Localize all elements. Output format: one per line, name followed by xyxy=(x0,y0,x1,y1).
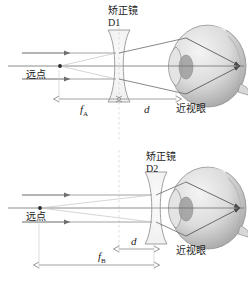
optic-nerve-bottom xyxy=(238,226,248,237)
vertex-distance-label-d-bottom: d xyxy=(131,236,137,248)
lens-label-d2-line2: D2 xyxy=(146,164,158,175)
eye-label-bottom: 近视眼 xyxy=(176,246,206,257)
virtual-ray-lower-bottom xyxy=(40,208,152,222)
vertex-distance-label-d-top: d xyxy=(144,104,150,116)
far-point-label-top: 远点 xyxy=(26,70,46,81)
lens-label-d1-line2: D1 xyxy=(108,18,120,29)
far-point-marker-top xyxy=(58,64,62,68)
far-point-marker-bottom xyxy=(38,206,42,210)
focal-length-label-fb: fB xyxy=(98,251,106,266)
virtual-ray-upper-bottom xyxy=(40,195,152,208)
optic-nerve-top xyxy=(238,84,248,95)
virtual-ray-lower-top xyxy=(60,66,116,79)
diagram-canvas xyxy=(0,0,248,284)
lens-label-d1-line1: 矫正镜 xyxy=(108,6,138,17)
fb-subscript: B xyxy=(101,257,106,265)
far-point-label-bottom: 远点 xyxy=(26,212,46,223)
panel-bottom xyxy=(8,150,248,269)
eye-label-top: 近视眼 xyxy=(176,104,206,115)
lens-label-d2-line1: 矫正镜 xyxy=(146,152,176,163)
focal-length-label-fa: fA xyxy=(80,104,88,119)
crystalline-lens-top xyxy=(179,55,193,79)
panel-top xyxy=(8,22,248,140)
optics-diagram-figure: 矫正镜 D1 远点 近视眼 fA d 矫正镜 D2 远点 近视眼 d fB xyxy=(0,0,248,284)
fa-subscript: A xyxy=(83,110,88,118)
virtual-ray-upper-top xyxy=(60,53,116,66)
crystalline-lens-bottom xyxy=(179,197,193,221)
